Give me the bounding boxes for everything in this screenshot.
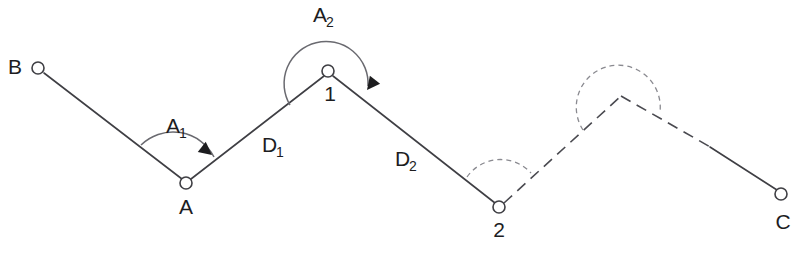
angle-arc-angle-at-3 xyxy=(576,65,660,130)
arrowhead-shape xyxy=(362,76,380,94)
traverse-segment-1-2 xyxy=(333,76,495,203)
arrow-heads-layer xyxy=(198,76,380,160)
distance-label-sub-D1: 1 xyxy=(276,144,284,160)
station-marker-1 xyxy=(322,65,334,77)
station-label-B: B xyxy=(8,55,22,78)
angle-label-A1: A xyxy=(166,114,180,137)
angle-labels-layer: A1A2 xyxy=(166,3,334,141)
angle-arrowhead-A2 xyxy=(362,76,380,94)
station-markers-layer xyxy=(32,62,787,213)
angle-label-A2: A xyxy=(313,3,327,26)
station-label-2: 2 xyxy=(493,218,505,241)
station-marker-C xyxy=(775,188,787,200)
angle-arc-angle-at-2 xyxy=(467,160,531,177)
angle-arrowhead-A1 xyxy=(198,142,216,160)
angle-label-sub-A2: 2 xyxy=(326,14,334,30)
station-label-1: 1 xyxy=(324,82,336,105)
traverse-segment-3-C-dashed xyxy=(621,96,712,148)
diagram-canvas: BA12C A1A2 D1D2 xyxy=(0,0,801,253)
station-label-C: C xyxy=(775,210,790,233)
station-marker-2 xyxy=(493,201,505,213)
station-label-A: A xyxy=(179,195,193,218)
segments-layer xyxy=(44,73,777,203)
distance-label-D1: D xyxy=(262,133,277,156)
station-marker-A xyxy=(180,177,192,189)
traverse-segment-3-C-solid xyxy=(710,147,777,190)
distance-label-sub-D2: 2 xyxy=(409,158,417,174)
angle-label-sub-A1: 1 xyxy=(179,125,187,141)
distance-label-D2: D xyxy=(395,147,410,170)
traverse-segment-2-3 xyxy=(504,96,621,203)
station-marker-B xyxy=(32,62,44,74)
arrowhead-shape xyxy=(198,142,216,160)
traverse-segment-B-A xyxy=(44,73,182,179)
distance-labels-layer: D1D2 xyxy=(262,133,417,174)
traverse-diagram: BA12C A1A2 D1D2 xyxy=(0,0,801,253)
traverse-segment-A-1 xyxy=(191,76,324,179)
